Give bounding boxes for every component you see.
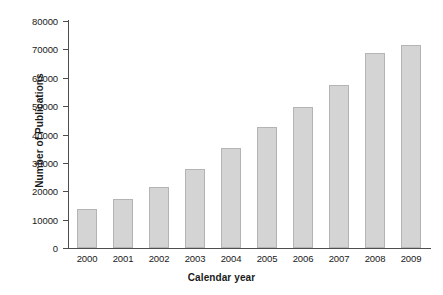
y-axis-tick-label: 50000 [32,101,58,112]
x-axis-line [68,248,431,249]
bar-2000 [77,209,97,248]
y-axis-tick-label: 70000 [32,44,58,55]
bar-2007 [329,85,349,248]
publications-bar-chart: Number of Publications 01000020000300004… [0,0,443,295]
bar-2004 [221,148,241,248]
y-axis-tick [63,248,69,249]
x-axis-title: Calendar year [0,272,443,283]
bar-2006 [293,107,313,248]
y-axis-tick-label: 60000 [32,72,58,83]
bar-2009 [401,45,421,248]
y-axis-tick-label: 40000 [32,129,58,140]
y-axis-tick-label: 80000 [32,16,58,27]
bar-2002 [149,187,169,248]
bar-2005 [257,127,277,248]
plot-area [69,21,430,248]
y-axis-tick-label: 30000 [32,157,58,168]
y-axis-tick-label: 20000 [32,186,58,197]
x-axis-tick-label: 2009 [388,253,434,264]
y-axis-tick-label: 10000 [32,214,58,225]
bar-2001 [113,199,133,248]
bar-2008 [365,53,385,248]
bar-2003 [185,169,205,248]
y-axis-tick-label: 0 [53,243,58,254]
